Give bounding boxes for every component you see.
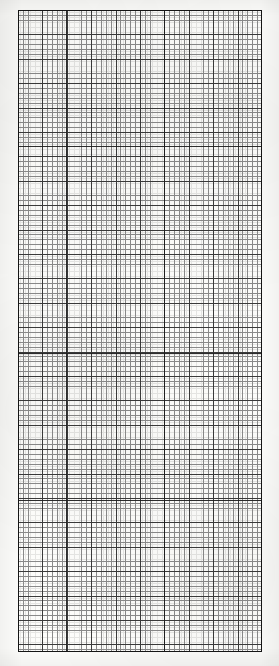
- grid-minor-lines-layer: [18, 10, 262, 652]
- grid-emphasis-row: [18, 500, 262, 501]
- grid-block: [18, 10, 262, 652]
- grid-sublines-layer: [18, 10, 262, 652]
- grid-major-lines-layer: [18, 10, 262, 652]
- grid-emphasis-row: [18, 353, 262, 354]
- grid-emphasis-column: [66, 10, 67, 652]
- grid-emphasis-column: [164, 10, 165, 652]
- grid-emphasis-row: [18, 146, 262, 147]
- grid-ink-wrapper: [18, 10, 262, 652]
- graph-paper-sheet: Graph paper grid sheet: [0, 0, 279, 666]
